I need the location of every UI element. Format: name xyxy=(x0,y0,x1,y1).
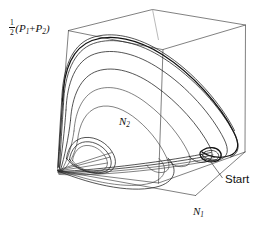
fraction-denominator: 2 xyxy=(9,29,15,37)
trajectory-loop-1 xyxy=(63,38,238,158)
trajectory-loop-2-group xyxy=(60,51,228,169)
paren-close: ) xyxy=(46,22,50,34)
phase-portrait-figure: 1 2 (P1+P2) N2 N1 Start xyxy=(0,0,268,229)
trajectory-loop-3 xyxy=(71,69,213,162)
cube-back-vertical-stub xyxy=(153,10,159,41)
cube-top-face-edge xyxy=(69,10,246,50)
vertical-axis-label: 1 2 (P1+P2) xyxy=(9,19,50,36)
trajectory-loop-4 xyxy=(74,88,190,167)
cube-right-vertical-edge xyxy=(245,25,246,152)
one-half-fraction: 1 2 xyxy=(9,19,15,36)
n2-subscript: 2 xyxy=(126,121,130,129)
fraction-numerator: 1 xyxy=(9,19,15,27)
n2-axis-label: N2 xyxy=(119,116,130,129)
n1-axis-label: N1 xyxy=(193,206,204,219)
cube-bottom-left-edge xyxy=(58,171,196,196)
trajectory-loop-1c xyxy=(62,35,235,131)
start-label: Start xyxy=(225,174,249,186)
p1-symbol: P xyxy=(19,22,26,34)
n1-subscript: 1 xyxy=(200,211,204,219)
trajectory-loop-2 xyxy=(66,51,227,160)
